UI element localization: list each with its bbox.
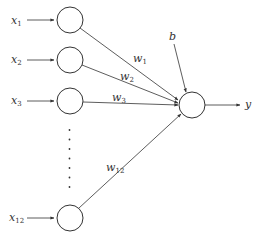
weight-label-w3: w3 bbox=[112, 91, 126, 105]
output-label: y bbox=[244, 98, 252, 111]
input-node-1: x1 bbox=[11, 7, 83, 33]
weight-edge-3 bbox=[83, 102, 178, 105]
weight-edge-1 bbox=[80, 28, 178, 100]
input-circle-3 bbox=[57, 88, 83, 114]
weight-label-w2: w2 bbox=[120, 70, 134, 84]
vertical-ellipsis bbox=[69, 129, 71, 188]
input-node-3: x3 bbox=[11, 88, 83, 114]
input-circle-1 bbox=[57, 7, 83, 33]
bias-arrow bbox=[174, 44, 186, 92]
weight-edge-12 bbox=[79, 114, 181, 208]
input-label-x2: x2 bbox=[11, 53, 22, 67]
input-node-12: x12 bbox=[9, 205, 83, 231]
input-label-x12: x12 bbox=[9, 211, 24, 225]
output-neuron bbox=[179, 92, 205, 118]
weight-label-w1: w1 bbox=[133, 52, 147, 66]
weight-edge-2 bbox=[82, 65, 178, 103]
input-node-2: x2 bbox=[11, 47, 83, 73]
input-label-x3: x3 bbox=[11, 94, 22, 108]
input-label-x1: x1 bbox=[11, 14, 22, 28]
bias-label: b bbox=[169, 30, 176, 43]
neural-network-diagram: x1 x2 x3 x12 w1 w2 w3 w12 b bbox=[0, 0, 261, 243]
weight-label-w12: w12 bbox=[106, 161, 124, 175]
input-circle-2 bbox=[57, 47, 83, 73]
input-circle-12 bbox=[57, 205, 83, 231]
